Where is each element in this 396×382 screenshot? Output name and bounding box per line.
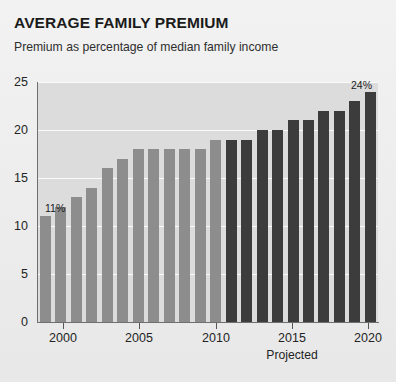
last-value-label: 24% (351, 79, 372, 91)
x-tick-label-2010: 2010 (202, 331, 230, 345)
x-tick-mark-2000 (63, 323, 64, 329)
first-value-label: 11% (45, 202, 65, 214)
x-tick-label-2015: 2015 (278, 331, 306, 345)
x-tick-mark-2015 (292, 323, 293, 329)
projected-note-label: Projected (266, 348, 318, 362)
x-tick-mark-2010 (216, 323, 217, 329)
x-tick-label-2020: 2020 (354, 331, 382, 345)
x-tick-label-2000: 2000 (49, 331, 77, 345)
chart-figure: AVERAGE FAMILY PREMIUM Premium as percen… (0, 0, 396, 382)
x-tick-mark-2005 (139, 323, 140, 329)
x-tick-label-2005: 2005 (125, 331, 153, 345)
x-axis-labels: 20002005201020152020 (0, 0, 396, 382)
x-tick-mark-2020 (368, 323, 369, 329)
